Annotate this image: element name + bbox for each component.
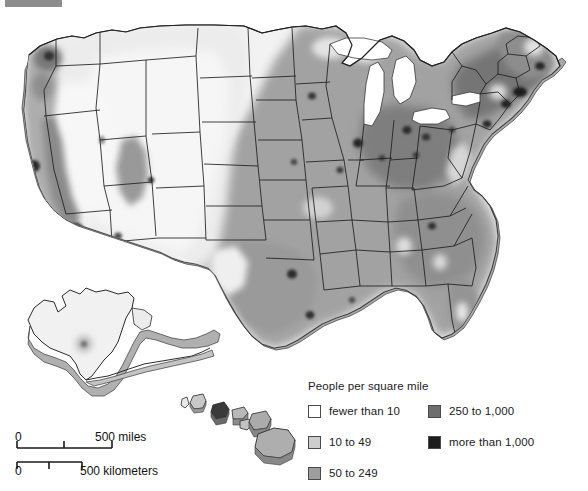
metro-cleveland xyxy=(422,134,430,141)
legend-label-250-to-1000: 250 to 1,000 xyxy=(449,405,514,417)
metro-houston xyxy=(306,311,315,319)
metro-miami xyxy=(470,328,477,337)
legend-item-fewer-than-10[interactable]: fewer than 10 xyxy=(308,402,400,420)
legend-label-10-to-49: 10 to 49 xyxy=(329,436,371,448)
legend-swatch-50-to-249 xyxy=(308,467,321,480)
island-niihau xyxy=(181,397,189,408)
scale-bars: 0 500 miles 0 500 kilometers xyxy=(12,424,212,488)
scale-miles-start-label: 0 xyxy=(15,430,22,444)
density-ozark-low xyxy=(303,197,333,219)
legend-label-more-than-1000: more than 1,000 xyxy=(449,436,534,448)
metro-dallas xyxy=(287,270,297,279)
legend-label-fewer-than-10: fewer than 10 xyxy=(329,405,400,417)
scale-km-end-label: 500 kilometers xyxy=(80,464,158,478)
metro-kansas-city xyxy=(291,159,297,165)
metro-seattle xyxy=(44,52,54,61)
metro-new-york xyxy=(513,87,527,97)
metro-washington-dc xyxy=(483,120,492,128)
scale-miles-end-label: 500 miles xyxy=(95,430,146,444)
metro-stlouis xyxy=(337,167,344,173)
density-alabama-low xyxy=(396,237,412,255)
legend-swatch-fewer-than-10 xyxy=(308,405,321,418)
legend-label-50-to-249: 50 to 249 xyxy=(329,467,378,479)
metro-new-orleans xyxy=(349,297,355,303)
metro-minneapolis xyxy=(308,93,316,100)
density-willamette xyxy=(32,72,52,100)
metro-indianapolis xyxy=(379,155,385,161)
map-legend: People per square mile fewer than 10 10 … xyxy=(306,378,584,488)
legend-item-50-to-249[interactable]: 50 to 249 xyxy=(308,464,400,482)
metro-columbus xyxy=(413,152,419,158)
density-florida-interior-low xyxy=(456,302,468,322)
legend-swatch-more-than-1000 xyxy=(428,436,441,449)
scale-km-start-label: 0 xyxy=(15,464,22,478)
metro-boston xyxy=(535,62,545,70)
legend-title: People per square mile xyxy=(308,380,428,392)
legend-swatch-10-to-49 xyxy=(308,436,321,449)
density-georgia-low xyxy=(433,254,447,270)
legend-item-10-to-49[interactable]: 10 to 49 xyxy=(308,433,400,451)
metro-anchorage-core xyxy=(81,341,87,347)
alaska-inset xyxy=(28,288,220,396)
metro-atlanta xyxy=(428,223,436,230)
metro-san-diego xyxy=(84,243,92,250)
alaska-panhandle xyxy=(132,308,152,330)
legend-swatch-250-to-1000 xyxy=(428,405,441,418)
legend-column-left: fewer than 10 10 to 49 50 to 249 xyxy=(308,402,400,491)
legend-column-right: 250 to 1,000 more than 1,000 xyxy=(428,402,534,464)
legend-item-more-than-1000[interactable]: more than 1,000 xyxy=(428,433,534,451)
map-page: People per square mile fewer than 10 10 … xyxy=(0,0,588,491)
legend-item-250-to-1000[interactable]: 250 to 1,000 xyxy=(428,402,534,420)
metro-detroit xyxy=(403,126,412,134)
alaska-landmass xyxy=(28,288,134,380)
